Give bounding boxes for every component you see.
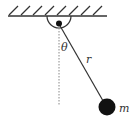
pendulum-string <box>59 24 106 106</box>
mass-label: m <box>119 102 129 115</box>
pendulum-svg: θ r m <box>0 0 136 118</box>
length-label: r <box>86 53 92 66</box>
ceiling-hatching <box>9 6 102 15</box>
pivot-point <box>56 21 62 27</box>
pendulum-diagram: θ r m <box>0 0 136 118</box>
angle-label: θ <box>61 41 68 54</box>
pendulum-bob <box>99 99 116 116</box>
